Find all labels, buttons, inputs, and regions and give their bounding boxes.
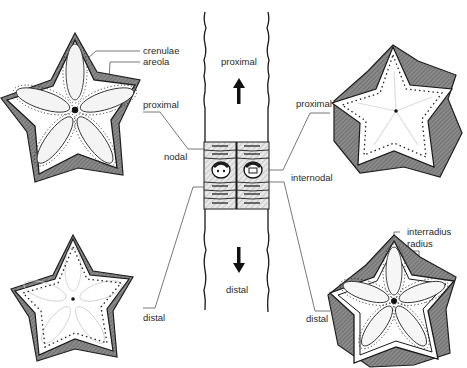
arrow-down-icon <box>233 247 245 273</box>
arrow-up-icon <box>233 78 245 104</box>
facet-top-right <box>332 45 462 177</box>
label-left-proximal: proximal <box>143 100 179 110</box>
label-areola: areola <box>143 57 169 67</box>
label-stem-distal: distal <box>226 285 248 295</box>
label-radius: radius <box>407 239 433 249</box>
stem-right-wall-lower <box>267 209 269 312</box>
stem-left-wall-lower <box>204 209 206 310</box>
label-interradius: interradius <box>407 227 451 237</box>
stem-left-wall-upper <box>204 12 206 142</box>
label-nodal: nodal <box>164 152 187 162</box>
cirrus-socket-right <box>244 162 262 178</box>
diagram-canvas: crenulae areola proximal nodal distal pr… <box>0 0 467 368</box>
label-stem-proximal: proximal <box>221 57 257 67</box>
facet-bottom-right <box>328 235 456 367</box>
facet-top-left <box>1 33 140 182</box>
facet-bottom-left <box>11 235 133 361</box>
label-crenulae: crenulae <box>143 46 179 56</box>
stem-right-wall-upper <box>267 12 269 142</box>
label-right-distal: distal <box>306 314 328 324</box>
label-internodal: internodal <box>291 173 333 183</box>
label-left-distal: distal <box>143 313 165 323</box>
label-right-proximal: proximal <box>296 99 332 109</box>
cirrus-socket-left <box>212 162 230 178</box>
